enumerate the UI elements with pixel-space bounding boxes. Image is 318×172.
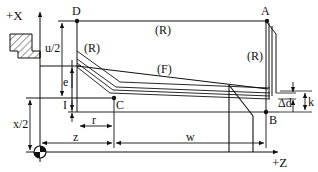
rapid-return-lines — [266, 21, 276, 112]
rapid-right-label: (R) — [247, 49, 263, 63]
feed-label: (F) — [157, 62, 172, 76]
point-d-marker — [75, 19, 79, 23]
point-c-label: C — [116, 98, 124, 112]
feed-line — [77, 66, 268, 89]
x-axis-label: +X — [6, 8, 23, 23]
rapid-top-label: (R) — [155, 23, 171, 37]
r-label: r — [92, 113, 96, 127]
dim-i: I — [63, 98, 72, 122]
dim-e: e — [62, 66, 72, 96]
rapid-left-label: (R) — [84, 41, 100, 55]
tool-holder — [10, 34, 40, 58]
u-half-label: u/2 — [45, 41, 60, 55]
z-axis: +Z — [26, 152, 287, 170]
z-axis-label: +Z — [272, 155, 287, 170]
x-half-label: x/2 — [13, 117, 28, 131]
point-a-label: A — [261, 4, 270, 18]
i-label: I — [63, 98, 67, 112]
x-axis: +X — [6, 8, 40, 162]
origin-icon — [34, 146, 46, 158]
dim-w: w — [116, 112, 266, 148]
point-d-label: D — [72, 4, 81, 18]
z-label: z — [73, 130, 78, 144]
point-a-marker — [265, 19, 269, 23]
thread-cutting-cycle-diagram: +X +Z — [0, 0, 318, 172]
dim-u-half: u/2 — [45, 23, 62, 66]
dim-r: r — [80, 113, 112, 127]
point-b-label: B — [269, 113, 277, 127]
dim-z: z — [42, 130, 112, 144]
dim-delta-d: Δd — [276, 82, 296, 112]
e-label: e — [63, 75, 68, 89]
delta-d-label: Δd — [278, 96, 292, 110]
k-label: k — [308, 95, 314, 109]
rapid-passes — [77, 51, 270, 99]
w-label: w — [186, 130, 195, 144]
dim-x-half: x/2 — [13, 100, 30, 150]
